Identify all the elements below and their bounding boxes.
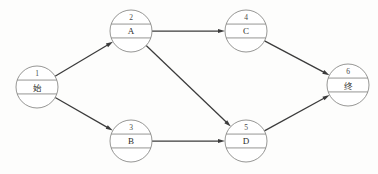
node-activity-label: D [243,136,250,146]
edge-1-to-3 [55,97,113,130]
node-activity-label: 终 [344,81,353,91]
edge-2-to-5 [146,46,231,127]
edge-line [265,41,326,74]
arrow-head-icon [218,29,225,33]
node-2[interactable]: 2A [110,10,152,52]
arrow-head-icon [106,42,113,47]
arrow-head-icon [322,70,329,75]
node-activity-label: A [128,26,135,36]
node-4[interactable]: 4C [225,10,267,52]
node-id-label: 2 [129,13,133,22]
node-id-label: 3 [129,123,133,132]
node-id-label: 1 [35,69,39,78]
diagram-canvas: 1始2A3B4C5D6终 [0,0,378,174]
edges-layer [55,29,330,143]
node-activity-label: 始 [33,83,42,93]
edge-2-to-4 [152,29,225,33]
node-id-label: 5 [244,123,248,132]
edge-4-to-6 [265,41,330,75]
arrow-head-icon [106,125,113,130]
edge-line [146,46,228,124]
edge-line [55,44,110,77]
node-id-label: 6 [346,67,350,76]
node-5[interactable]: 5D [225,120,267,162]
node-1[interactable]: 1始 [16,66,58,108]
arrow-head-icon [322,95,329,100]
edge-line [55,97,109,128]
nodes-layer: 1始2A3B4C5D6终 [16,10,369,162]
edge-5-to-6 [264,95,329,131]
node-6[interactable]: 6终 [327,64,369,106]
arrow-head-icon [218,139,225,143]
node-3[interactable]: 3B [110,120,152,162]
edge-3-to-5 [152,139,225,143]
node-id-label: 4 [244,13,248,22]
activity-network-graph: 1始2A3B4C5D6终 [0,0,378,174]
node-activity-label: B [128,136,134,146]
node-activity-label: C [243,26,249,36]
edge-line [264,97,326,131]
edge-1-to-2 [55,42,113,77]
